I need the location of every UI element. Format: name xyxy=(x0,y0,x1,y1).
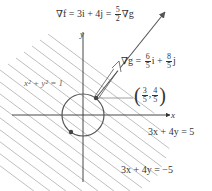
circle-equation-label: x² + y² = 1 xyxy=(24,79,63,88)
point-coordinates-label: ( 3 5 , 4 5 ) xyxy=(134,85,166,105)
level-line-upper-label: 3x + 4y = 5 xyxy=(148,127,194,137)
grad-g-label: ∇g = 6 5 i + 8 5 j xyxy=(121,53,176,70)
lagrange-multiplier-diagram: ∇f = 3i + 4j = 5 2 ∇g ∇g = 6 5 i + 8 5 j… xyxy=(0,0,212,191)
fraction-five-halves: 5 2 xyxy=(115,6,121,23)
x-axis-label: x xyxy=(171,111,175,120)
grad-g-ref: ∇g xyxy=(122,8,134,19)
level-line-lower-label: 3x + 4y = −5 xyxy=(121,165,173,175)
grad-f-label: ∇f = 3i + 4j = 5 2 ∇g xyxy=(56,6,134,23)
grad-g-arrow xyxy=(95,61,121,99)
y-axis-label: y xyxy=(80,30,84,39)
point-max xyxy=(94,96,98,100)
point-min xyxy=(69,130,73,134)
diagram-graphics xyxy=(0,0,212,191)
grad-f-lhs: ∇f = 3i + 4j = xyxy=(56,8,111,19)
